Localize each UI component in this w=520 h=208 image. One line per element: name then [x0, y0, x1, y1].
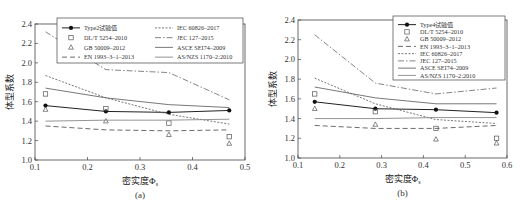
series-dashed	[46, 126, 230, 131]
y-tick-label: 2.0	[21, 58, 32, 68]
svg-text:DL/T 5254–2010: DL/T 5254–2010	[420, 28, 463, 35]
x-tick-label: 0.6	[502, 160, 513, 170]
svg-text:GB 50009–2012: GB 50009–2012	[84, 44, 125, 51]
svg-text:EN 1993–3–1–2013: EN 1993–3–1–2013	[84, 53, 134, 60]
panel-caption: (b)	[397, 188, 408, 198]
legend: Type4试验值DL/T 5254–2010GB 50009–2012EN 19…	[393, 16, 505, 80]
svg-text:GB 50009–2012: GB 50009–2012	[420, 35, 461, 42]
x-tick-label: 0.3	[135, 162, 146, 172]
series-solid-marker-dot	[43, 104, 231, 115]
y-tick-label: 1.2	[284, 133, 295, 143]
y-tick-label: 2.2	[284, 35, 295, 45]
series-dashed	[315, 125, 497, 128]
x-tick-label: 0.5	[460, 160, 471, 170]
x-tick-label: 0.3	[376, 160, 387, 170]
x-tick-label: 0.5	[240, 162, 251, 172]
y-tick-label: 1.6	[284, 94, 295, 104]
y-tick-label: 1.8	[21, 77, 32, 87]
x-tick-label: 0.1	[30, 162, 41, 172]
y-tick-label: 1.4	[284, 114, 295, 124]
svg-text:JEC 127–2015: JEC 127–2015	[420, 57, 457, 64]
svg-text:ASCE SEI74–2009: ASCE SEI74–2009	[420, 64, 468, 71]
chart-panel-b: 1.01.21.41.61.82.02.22.40.10.20.30.40.50…	[260, 0, 520, 208]
series-solid-light	[46, 119, 230, 121]
x-tick-label: 0.2	[82, 162, 93, 172]
svg-text:AS/NZS 1170–2:2010: AS/NZS 1170–2:2010	[177, 53, 232, 60]
series-marker-square	[313, 92, 499, 141]
svg-text:IEC 60826–2017: IEC 60826–2017	[177, 24, 219, 31]
series-solid-thin	[46, 88, 230, 107]
y-axis-title: 体型系数	[4, 74, 15, 110]
y-tick-label: 1.2	[21, 136, 32, 146]
series-solid-light	[315, 118, 497, 119]
svg-text:AS/NZS 1170–2:2010: AS/NZS 1170–2:2010	[420, 72, 475, 79]
panel-caption: (a)	[135, 190, 145, 200]
y-tick-label: 2.0	[284, 54, 295, 64]
svg-text:Type2试验值: Type2试验值	[84, 24, 117, 32]
svg-text:ASCE SEI74–2009: ASCE SEI74–2009	[177, 44, 225, 51]
y-tick-label: 1.6	[21, 97, 32, 107]
series-marker-triangle	[312, 106, 499, 145]
x-axis-title: 密实度Φs	[122, 175, 159, 187]
y-tick-label: 2.4	[284, 15, 295, 25]
legend: Type2试验值DL/T 5254–2010GB 50009–2012EN 19…	[57, 18, 243, 63]
x-tick-label: 0.4	[418, 160, 429, 170]
svg-text:EN 1993–3–1–2013: EN 1993–3–1–2013	[420, 43, 470, 50]
y-tick-label: 2.2	[21, 38, 32, 48]
series-marker-triangle	[43, 107, 232, 145]
chart-panel-a: 1.01.21.41.61.82.02.22.40.10.20.30.40.5密…	[0, 0, 260, 208]
svg-text:IEC 60826–2017: IEC 60826–2017	[420, 50, 462, 57]
chart-a-svg: 1.01.21.41.61.82.02.22.40.10.20.30.40.5密…	[0, 0, 260, 208]
x-axis-title: 密实度Φs	[385, 173, 422, 185]
chart-b-svg: 1.01.21.41.61.82.02.22.40.10.20.30.40.50…	[260, 0, 520, 208]
svg-text:DL/T 5254–2010: DL/T 5254–2010	[84, 34, 127, 41]
y-tick-label: 1.4	[21, 116, 32, 126]
series-solid-marker-dot	[313, 100, 499, 115]
x-tick-label: 0.4	[187, 162, 198, 172]
series-dotted	[46, 75, 230, 124]
svg-text:JEC 127–2015: JEC 127–2015	[177, 34, 214, 41]
y-axis-title: 体型系数	[267, 71, 278, 107]
series-marker-square	[43, 92, 231, 139]
y-tick-label: 1.8	[284, 74, 295, 84]
x-tick-label: 0.2	[334, 160, 345, 170]
y-tick-label: 2.4	[21, 19, 32, 29]
x-tick-label: 0.1	[293, 160, 304, 170]
